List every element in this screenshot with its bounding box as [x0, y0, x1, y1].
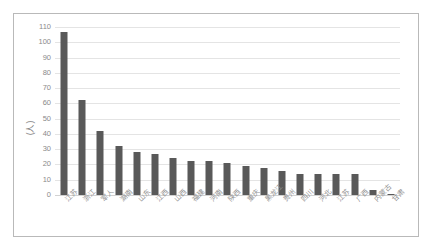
y-axis-tick-label: 0 — [47, 191, 51, 199]
x-label-slot: 四川 — [291, 196, 309, 238]
x-label-slot: 贵州 — [273, 196, 291, 238]
bar-slot — [200, 27, 218, 195]
x-label-slot: 广西 — [346, 196, 364, 238]
x-label-slot: 福建 — [182, 196, 200, 238]
bar-slot — [273, 27, 291, 195]
x-label-slot: 湖南 — [109, 196, 127, 238]
x-label-slot: 甘肃 — [382, 196, 400, 238]
bar-slot — [255, 27, 273, 195]
document-frame: (人) 1101009080706050403020100 江苏浙江军人湖南山东… — [13, 13, 419, 237]
x-label-slot: 黑龙江 — [255, 196, 273, 238]
y-axis-title: (人) — [23, 115, 35, 141]
bar — [61, 32, 68, 195]
bar-slot — [327, 27, 345, 195]
bar-slot — [291, 27, 309, 195]
bar-slot — [237, 27, 255, 195]
bar-slot — [346, 27, 364, 195]
x-label-slot: 陕西 — [218, 196, 236, 238]
x-axis-tick-labels: 江苏浙江军人湖南山东江西山西福建河南陕西重庆黑龙江贵州四川河北江苏广西内蒙古甘肃 — [55, 196, 400, 238]
bar — [206, 161, 213, 195]
y-axis-tick-label: 30 — [43, 145, 51, 153]
bar-slot — [218, 27, 236, 195]
x-label-slot: 山西 — [164, 196, 182, 238]
bar-slot — [382, 27, 400, 195]
bar-slot — [55, 27, 73, 195]
y-axis-tick-label: 50 — [43, 115, 51, 123]
plot-area: 1101009080706050403020100 — [55, 27, 400, 195]
y-axis-tick-label: 70 — [43, 84, 51, 92]
bar — [115, 146, 122, 195]
bar-slot — [164, 27, 182, 195]
x-label-slot: 重庆 — [237, 196, 255, 238]
bar — [297, 174, 304, 195]
bar — [188, 161, 195, 195]
y-axis-tick-label: 10 — [43, 176, 51, 184]
x-label-slot: 军人 — [91, 196, 109, 238]
x-label-slot: 江苏 — [327, 196, 345, 238]
y-axis-tick-label: 80 — [43, 69, 51, 77]
x-label-slot: 江西 — [146, 196, 164, 238]
bar — [97, 131, 104, 195]
y-axis-tick-label: 20 — [43, 161, 51, 169]
x-label-slot: 内蒙古 — [364, 196, 382, 238]
bar-slot — [128, 27, 146, 195]
bar-chart: (人) 1101009080706050403020100 江苏浙江军人湖南山东… — [14, 14, 418, 236]
y-axis-tick-label: 40 — [43, 130, 51, 138]
bar-slot — [146, 27, 164, 195]
bar — [315, 174, 322, 195]
bar-series — [55, 27, 400, 195]
bar-slot — [91, 27, 109, 195]
bar — [79, 100, 86, 195]
bar — [333, 174, 340, 195]
x-label-slot: 河北 — [309, 196, 327, 238]
bar — [351, 174, 358, 195]
bar-slot — [182, 27, 200, 195]
y-axis-tick-label: 90 — [43, 54, 51, 62]
bar-slot — [364, 27, 382, 195]
bar — [242, 166, 249, 195]
bar — [260, 168, 267, 195]
y-axis-tick-label: 100 — [38, 39, 51, 47]
x-label-slot: 江苏 — [55, 196, 73, 238]
bar — [133, 152, 140, 195]
y-axis-tick-label: 60 — [43, 100, 51, 108]
bar — [224, 163, 231, 195]
bar-slot — [309, 27, 327, 195]
bar — [170, 158, 177, 195]
bar — [151, 154, 158, 195]
x-label-slot: 河南 — [200, 196, 218, 238]
x-label-slot: 山东 — [128, 196, 146, 238]
x-label-slot: 浙江 — [73, 196, 91, 238]
bar-slot — [73, 27, 91, 195]
bar-slot — [109, 27, 127, 195]
y-axis-tick-label: 110 — [39, 23, 51, 31]
